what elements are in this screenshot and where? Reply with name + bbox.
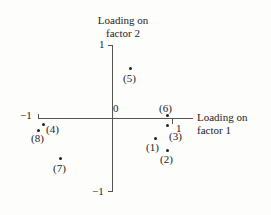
y-axis-title: Loading on factor 2 [78,14,168,40]
scatter-plot-figure: −1 1 1 −1 0 Loading on factor 2 Loading … [0,0,271,215]
x-axis-tick-label-negative-one: −1 [20,110,32,121]
data-point-label: (2) [160,154,173,165]
y-axis-tick-positive-one [108,45,113,46]
data-point [166,114,169,117]
x-axis-title-line-1: Loading on [197,111,247,124]
y-axis-tick-label-negative-one: −1 [92,186,104,197]
data-point [154,137,157,140]
data-point-label: (3) [169,131,182,142]
data-point [129,67,132,70]
y-axis-title-line-2: factor 2 [78,27,168,40]
x-axis-tick-negative-one [38,114,39,119]
origin-label: 0 [113,103,119,114]
y-axis-line [112,45,113,192]
data-point-label: (5) [123,73,136,84]
y-axis-title-line-1: Loading on [78,14,168,27]
data-point [42,123,45,126]
data-point-label: (8) [31,133,44,144]
x-axis-title: Loading on factor 1 [197,111,247,137]
data-point [166,149,169,152]
x-axis-line [38,118,193,119]
data-point-label: (7) [53,163,66,174]
data-point-label: (4) [46,124,59,135]
y-axis-tick-label-positive-one: 1 [99,39,105,50]
data-point [166,124,169,127]
data-point-label: (6) [159,103,172,114]
data-point [59,157,62,160]
data-point-label: (1) [146,142,159,153]
y-axis-tick-negative-one [108,191,113,192]
x-axis-tick-positive-one [172,119,173,124]
plot-area: −1 1 1 −1 0 Loading on factor 2 Loading … [0,0,271,215]
x-axis-title-line-2: factor 1 [197,124,247,137]
